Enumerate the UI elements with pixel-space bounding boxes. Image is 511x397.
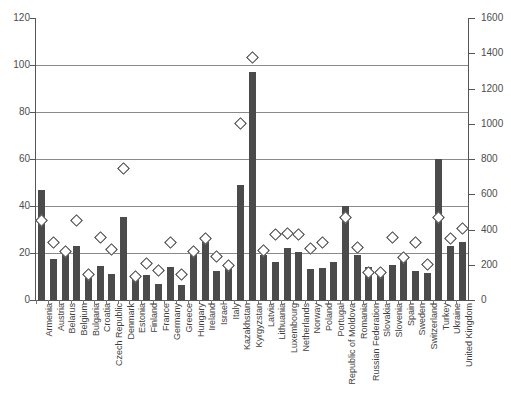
x-axis-label: Turkey	[442, 303, 451, 330]
x-axis-label: Hungary	[197, 303, 206, 337]
bar	[73, 246, 80, 300]
y-axis-left-tick-label: 20	[0, 248, 30, 258]
y-axis-right-tick-label: 1600	[481, 13, 511, 23]
y-axis-left-tick-label: 40	[0, 201, 30, 211]
data-point-marker	[351, 241, 364, 254]
bar	[435, 159, 442, 300]
x-axis-label: Kazakhstan	[243, 303, 252, 350]
data-point-marker	[456, 222, 469, 235]
y-axis-right-tick	[469, 194, 475, 195]
x-axis-label: Czech Republic	[115, 303, 124, 366]
bar	[167, 267, 174, 300]
y-axis-right-tick	[469, 18, 475, 19]
x-axis-label: Belarus	[68, 303, 77, 334]
bar	[412, 271, 419, 300]
x-axis-label: Italy	[232, 303, 241, 320]
data-point-marker	[444, 233, 457, 246]
data-point-marker	[316, 236, 329, 249]
bar	[108, 274, 115, 300]
x-axis-label: Armenia	[45, 303, 54, 337]
bar	[50, 259, 57, 300]
y-axis-left-tick	[30, 253, 35, 254]
bar	[272, 262, 279, 300]
bar	[284, 248, 291, 300]
bar	[330, 262, 337, 300]
bar	[237, 185, 244, 300]
data-point-marker	[164, 236, 177, 249]
gridline	[36, 65, 468, 66]
x-axis-label: Denmark	[127, 303, 136, 340]
bar	[459, 242, 466, 300]
data-point-marker	[269, 228, 282, 241]
y-axis-left-tick-label: 0	[0, 295, 30, 305]
x-axis-label: Spain	[407, 303, 416, 326]
y-axis-right-tick	[469, 89, 475, 90]
x-axis-label: Luxembourg	[290, 303, 299, 353]
x-axis-label: Finland	[150, 303, 159, 333]
bar	[190, 252, 197, 300]
bar	[260, 255, 267, 300]
x-axis-label: Austria	[57, 303, 66, 331]
y-axis-right-tick	[469, 159, 475, 160]
x-axis-label: Greece	[185, 303, 194, 333]
plot-area	[35, 18, 469, 301]
x-axis-label: Israel	[220, 303, 229, 325]
x-axis-label: Romania	[360, 303, 369, 339]
y-axis-right-tick-label: 600	[481, 189, 511, 199]
x-axis-label: Portugal	[337, 303, 346, 337]
x-axis-label: Bulgaria	[92, 303, 101, 336]
data-point-marker	[176, 268, 189, 281]
x-axis-label: Ireland	[208, 303, 217, 331]
x-axis-label: Lithuania	[278, 303, 287, 340]
x-axis-label: Norway	[313, 303, 322, 334]
y-axis-left-tick-label: 120	[0, 13, 30, 23]
x-axis-label: Croatia	[103, 303, 112, 332]
x-axis-label: Switzerland	[430, 303, 439, 350]
x-axis-labels: ArmeniaAustriaBelarusBelgiumBulgariaCroa…	[35, 303, 469, 397]
y-axis-left-tick	[30, 300, 35, 301]
y-axis-right-tick	[469, 124, 475, 125]
y-axis-right-tick-label: 0	[481, 295, 511, 305]
data-point-marker	[409, 236, 422, 249]
data-point-marker	[386, 231, 399, 244]
bar	[389, 265, 396, 300]
y-axis-right-tick-label: 1200	[481, 84, 511, 94]
y-axis-left-tick-label: 80	[0, 107, 30, 117]
data-point-marker	[234, 117, 247, 130]
x-axis-label: Latvia	[267, 303, 276, 327]
x-axis-label: Slovakia	[383, 303, 392, 337]
data-point-marker	[117, 162, 130, 175]
y-axis-right-tick	[469, 265, 475, 266]
bar	[178, 285, 185, 300]
y-axis-right-tick	[469, 230, 475, 231]
x-axis-label: Netherlands	[302, 303, 311, 352]
x-axis-label: Kyrgyzstan	[255, 303, 264, 348]
bar	[62, 254, 69, 300]
bar	[202, 242, 209, 300]
x-axis-label: France	[162, 303, 171, 331]
x-axis-label: Sweden	[418, 303, 427, 336]
bar	[424, 273, 431, 300]
y-axis-right-tick-label: 1400	[481, 48, 511, 58]
data-point-marker	[246, 52, 259, 65]
data-point-marker	[47, 236, 60, 249]
y-axis-right-tick-label: 800	[481, 154, 511, 164]
x-axis-label: Germany	[173, 303, 182, 340]
bar	[155, 284, 162, 300]
data-point-marker	[421, 258, 434, 271]
x-axis-label: Russian Federation	[372, 303, 381, 381]
y-axis-left-tick	[30, 65, 35, 66]
data-point-marker	[94, 231, 107, 244]
x-axis-label: Belgium	[80, 303, 89, 336]
data-point-marker	[292, 228, 305, 241]
x-axis-label: Poland	[325, 303, 334, 331]
y-axis-left-tick-label: 100	[0, 60, 30, 70]
bar	[354, 255, 361, 300]
x-axis-label: Republic of Moldova	[348, 303, 357, 385]
x-axis-label: Estonia	[138, 303, 147, 333]
bar	[225, 269, 232, 300]
bar	[143, 275, 150, 300]
bar	[319, 268, 326, 300]
y-axis-left-tick	[30, 112, 35, 113]
data-point-marker	[152, 264, 165, 277]
